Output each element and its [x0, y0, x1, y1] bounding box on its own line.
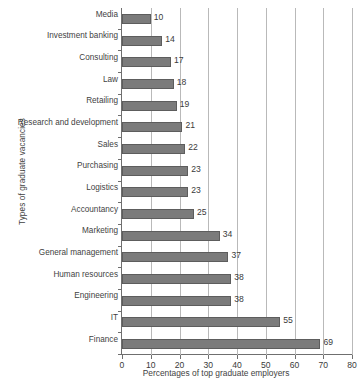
bar-value-label: 38	[234, 272, 244, 282]
bar-row: Media10	[122, 8, 352, 30]
x-axis-tick-50	[266, 355, 267, 359]
x-axis-tick-10	[151, 355, 152, 359]
x-axis-tick-20	[180, 355, 181, 359]
bar-row: Human resources38	[122, 268, 352, 290]
category-label: Research and development	[18, 118, 118, 127]
category-label: Finance	[89, 335, 118, 344]
bar-value-label: 25	[197, 207, 207, 217]
bar-row: Sales22	[122, 138, 352, 160]
bar-row: Research and development21	[122, 116, 352, 138]
bar	[122, 14, 151, 24]
bar	[122, 252, 228, 262]
plot-area: Media10Investment banking14Consulting17L…	[122, 8, 352, 355]
category-label: IT	[111, 313, 118, 322]
bar	[122, 231, 220, 241]
bar-row: Marketing34	[122, 225, 352, 247]
bar	[122, 209, 194, 219]
gridline-80	[352, 8, 353, 355]
x-axis-tick-80	[352, 355, 353, 359]
category-label: Marketing	[82, 226, 118, 235]
bar	[122, 122, 182, 132]
bar-row: Investment banking14	[122, 30, 352, 52]
bar-row: Law18	[122, 73, 352, 95]
bar-value-label: 17	[174, 55, 184, 65]
bar-row: Consulting17	[122, 51, 352, 73]
category-label: Investment banking	[47, 31, 118, 40]
bar-value-label: 23	[191, 164, 201, 174]
bar	[122, 144, 185, 154]
bar-value-label: 10	[154, 12, 164, 22]
x-axis-tick-30	[208, 355, 209, 359]
bar	[122, 57, 171, 67]
bar	[122, 274, 231, 284]
bar-value-label: 19	[180, 99, 190, 109]
bar-value-label: 37	[231, 250, 241, 260]
bar-row: Retailing19	[122, 95, 352, 117]
bar	[122, 296, 231, 306]
category-label: Logistics	[86, 183, 118, 192]
category-label: General management	[39, 248, 118, 257]
bar	[122, 166, 188, 176]
x-axis-tick-40	[237, 355, 238, 359]
bar-row: Accountancy25	[122, 203, 352, 225]
category-label: Retailing	[86, 96, 118, 105]
x-axis-tick-70	[323, 355, 324, 359]
category-label: Sales	[98, 140, 118, 149]
bar-value-label: 23	[191, 185, 201, 195]
bar	[122, 79, 174, 89]
bar-value-label: 14	[165, 34, 175, 44]
bar	[122, 187, 188, 197]
bar-value-label: 55	[283, 315, 293, 325]
x-axis-tick-0	[122, 355, 123, 359]
category-label: Accountancy	[71, 205, 118, 214]
x-axis-title: Percentages of top graduate employers	[0, 368, 362, 378]
category-label: Purchasing	[77, 161, 118, 170]
bar-row: Purchasing23	[122, 160, 352, 182]
y-axis-title: Types of graduate vacancies	[18, 72, 27, 272]
x-axis-title-text: Percentages of top graduate employers	[73, 368, 290, 378]
bar-row: Finance69	[122, 333, 352, 355]
x-axis-tick-60	[295, 355, 296, 359]
bar	[122, 36, 162, 46]
bar-value-label: 38	[234, 294, 244, 304]
bar-value-label: 18	[177, 77, 187, 87]
bar	[122, 317, 280, 327]
bar	[122, 101, 177, 111]
bar-value-label: 69	[323, 337, 333, 347]
category-label: Consulting	[79, 53, 118, 62]
bar-value-label: 34	[223, 229, 233, 239]
bar-row: IT55	[122, 312, 352, 334]
category-label: Media	[96, 10, 118, 19]
bar-value-label: 22	[188, 142, 198, 152]
bar-value-label: 21	[185, 120, 195, 130]
bar-row: Engineering38	[122, 290, 352, 312]
category-label: Engineering	[74, 291, 118, 300]
category-label: Law	[103, 75, 118, 84]
category-label: Human resources	[53, 270, 118, 279]
bar	[122, 339, 320, 349]
bar-chart: Types of graduate vacancies Media10Inves…	[0, 0, 362, 391]
bar-row: General management37	[122, 247, 352, 269]
bar-row: Logistics23	[122, 182, 352, 204]
